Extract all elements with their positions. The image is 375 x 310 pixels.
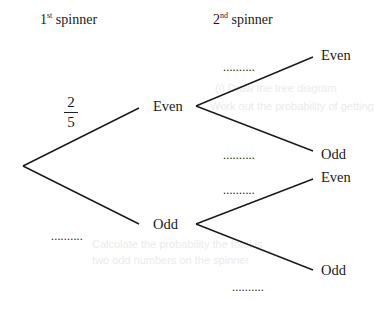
outcome-odd-even: Even xyxy=(321,170,351,185)
probability-first-odd-blank[interactable]: .......... xyxy=(51,230,83,242)
outcome-first-odd: Odd xyxy=(153,217,178,232)
branch-odd-odd xyxy=(196,224,313,270)
probability-odd-odd-blank[interactable]: .......... xyxy=(232,281,264,293)
outcome-even-even: Even xyxy=(321,48,351,63)
probability-first-even: 2 5 xyxy=(64,95,78,130)
probability-odd-even-blank[interactable]: .......... xyxy=(223,184,255,196)
probability-even-even-blank[interactable]: .......... xyxy=(223,61,255,73)
branch-first-even xyxy=(23,108,139,166)
tree-branches xyxy=(0,0,375,310)
probability-even-odd-blank[interactable]: .......... xyxy=(223,149,255,161)
numerator: 2 xyxy=(67,94,75,110)
outcome-odd-odd: Odd xyxy=(321,263,346,278)
denominator: 5 xyxy=(67,114,75,130)
fraction-bar xyxy=(64,112,78,113)
outcome-even-odd: Odd xyxy=(321,147,346,162)
branch-even-odd xyxy=(196,106,313,151)
branch-first-odd xyxy=(23,166,139,224)
outcome-first-even: Even xyxy=(153,99,183,114)
